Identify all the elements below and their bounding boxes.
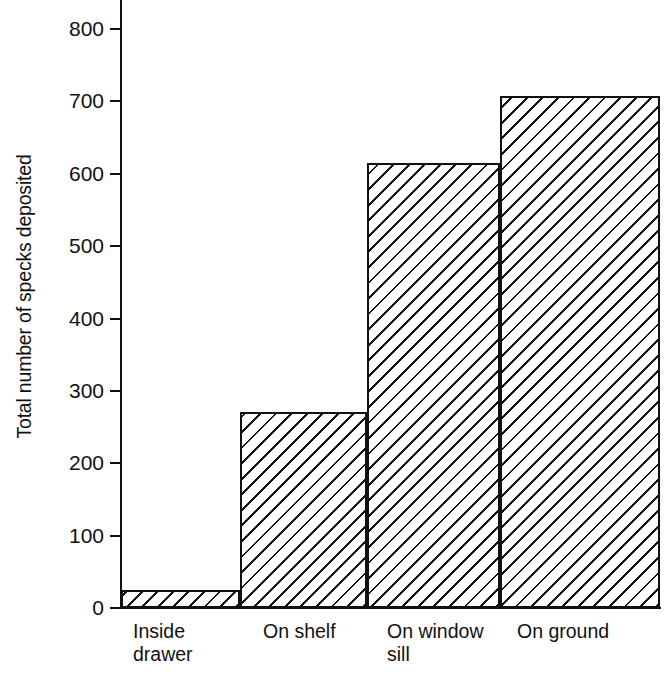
bar[interactable]	[500, 96, 660, 608]
y-tick-label: 500	[40, 235, 104, 256]
x-axis-label: On window sill	[387, 620, 483, 666]
y-tick-mark	[110, 607, 121, 609]
y-tick-mark	[110, 245, 121, 247]
y-axis-title: Total number of specks deposited	[13, 87, 36, 507]
bar[interactable]	[121, 590, 240, 608]
y-tick-label: 600	[40, 163, 104, 184]
bar[interactable]	[367, 163, 500, 608]
y-tick-label: 200	[40, 452, 104, 473]
y-tick-label: 300	[40, 380, 104, 401]
y-tick-mark	[110, 318, 121, 320]
y-tick-label: 400	[40, 308, 104, 329]
plot-area	[121, 0, 660, 609]
bar-chart: Total number of specks deposited 8007006…	[0, 0, 672, 687]
y-tick-mark	[110, 535, 121, 537]
y-tick-label: 0	[40, 597, 104, 618]
x-axis-label: On shelf	[263, 620, 336, 643]
y-tick-label: 700	[40, 90, 104, 111]
y-tick-label: 100	[40, 525, 104, 546]
y-tick-mark	[110, 390, 121, 392]
bar[interactable]	[240, 412, 367, 608]
y-tick-mark	[110, 100, 121, 102]
y-tick-label: 800	[40, 18, 104, 39]
y-tick-mark	[110, 28, 121, 30]
y-tick-mark	[110, 173, 121, 175]
x-axis-label: On ground	[517, 620, 609, 643]
y-tick-mark	[110, 462, 121, 464]
x-axis-label: Inside drawer	[133, 620, 193, 666]
